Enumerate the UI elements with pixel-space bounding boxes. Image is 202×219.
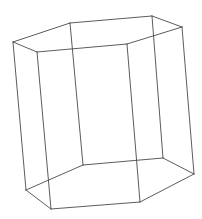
top-edge — [127, 27, 182, 44]
vertical-edge — [70, 23, 83, 165]
top-edge — [13, 23, 70, 42]
top-edge — [13, 42, 37, 52]
vertical-edge — [37, 52, 51, 209]
vertical-edge — [127, 44, 140, 202]
top-edge — [152, 16, 182, 27]
top-edge — [70, 16, 152, 23]
bottom-edge — [51, 202, 140, 209]
top-edge — [37, 44, 127, 52]
bottom-edge — [26, 190, 51, 209]
vertical-edge — [182, 27, 194, 174]
bottom-edge — [83, 158, 163, 165]
vertical-edge — [152, 16, 163, 158]
vertical-edge — [13, 42, 26, 190]
prism-diagram — [0, 0, 202, 219]
bottom-edge — [140, 174, 194, 202]
hexagonal-prism — [0, 0, 202, 219]
bottom-edge — [26, 165, 83, 190]
bottom-edge — [163, 158, 194, 174]
